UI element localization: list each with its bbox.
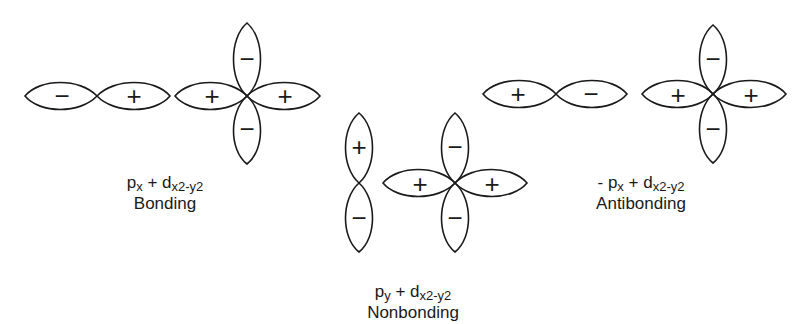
svg-text:+: + — [484, 169, 499, 199]
orbital-diagram: − + + + − − + − + + − − + − — [0, 0, 803, 324]
nonbonding-title: Nonbonding — [313, 304, 513, 321]
antibonding-label: - px + dx2-y2 Antibonding — [541, 174, 741, 212]
bonding-label: px + dx2-y2 Bonding — [65, 174, 265, 212]
bonding-p-orbital: − + — [25, 81, 170, 111]
nonbonding-d-orbital: + + − − — [383, 113, 527, 252]
bonding-d-orbital: + + − − — [175, 23, 320, 164]
svg-text:+: + — [670, 80, 685, 110]
svg-text:−: − — [583, 79, 598, 109]
svg-text:−: − — [705, 114, 720, 144]
antibonding-formula: - px + dx2-y2 — [541, 174, 741, 195]
svg-text:−: − — [447, 132, 462, 162]
svg-text:+: + — [126, 81, 141, 111]
antibonding-p-orbital: + − — [483, 79, 627, 109]
svg-text:+: + — [412, 169, 427, 199]
svg-text:−: − — [447, 203, 462, 233]
bonding-title: Bonding — [65, 195, 265, 212]
svg-text:+: + — [204, 81, 219, 111]
svg-text:−: − — [239, 44, 254, 74]
svg-text:−: − — [705, 44, 720, 74]
bonding-formula: px + dx2-y2 — [65, 174, 265, 195]
nonbonding-p-orbital: + − — [346, 113, 373, 252]
svg-text:−: − — [351, 203, 366, 233]
svg-text:+: + — [510, 79, 525, 109]
svg-text:+: + — [743, 80, 758, 110]
svg-text:+: + — [277, 81, 292, 111]
svg-text:−: − — [54, 81, 69, 111]
nonbonding-label: py + dx2-y2 Nonbonding — [313, 283, 513, 321]
antibonding-title: Antibonding — [541, 195, 741, 212]
nonbonding-formula: py + dx2-y2 — [313, 283, 513, 304]
antibonding-d-orbital: + + − − — [642, 25, 786, 163]
svg-text:−: − — [239, 114, 254, 144]
svg-text:+: + — [351, 132, 366, 162]
